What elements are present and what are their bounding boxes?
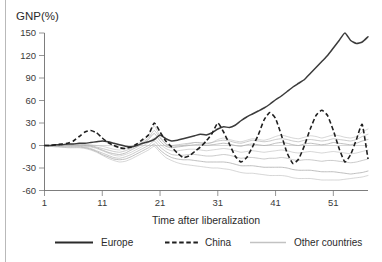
y-tick-label: 90 (25, 72, 36, 83)
x-tick-label: 31 (213, 197, 224, 208)
y-tick-label: -60 (22, 185, 36, 196)
figure-container: GNP(%) -60-300306090120150 11121314151 T… (0, 0, 382, 262)
x-tick-label: 51 (328, 197, 339, 208)
y-tick-label: 120 (20, 50, 36, 61)
legend-label: Europe (101, 237, 134, 248)
y-tick-label: 0 (31, 140, 36, 151)
chart-legend: EuropeChinaOther countries (55, 237, 362, 248)
x-tick-label: 41 (270, 197, 281, 208)
series-line-other-countries (45, 144, 369, 174)
y-tick-label: 150 (20, 27, 36, 38)
x-axis-title: Time after liberalization (152, 214, 260, 226)
series-other-countries (45, 126, 369, 180)
y-axis-ticks: -60-300306090120150 (20, 27, 44, 196)
x-tick-label: 21 (155, 197, 166, 208)
series-europe (45, 33, 369, 147)
gnp-line-chart: GNP(%) -60-300306090120150 11121314151 T… (0, 0, 382, 262)
x-axis-ticks: 11121314151 (42, 191, 339, 209)
y-tick-label: 60 (25, 95, 36, 106)
y-axis-title-group: GNP(%) (16, 10, 59, 22)
y-axis-title: GNP(%) (16, 10, 59, 22)
series-line-europe (45, 33, 369, 147)
y-tick-label: 30 (25, 117, 36, 128)
x-tick-label: 1 (42, 197, 47, 208)
x-tick-label: 11 (97, 197, 107, 208)
legend-label: China (205, 237, 232, 248)
y-tick-label: -30 (22, 162, 36, 173)
legend-label: Other countries (294, 237, 362, 248)
